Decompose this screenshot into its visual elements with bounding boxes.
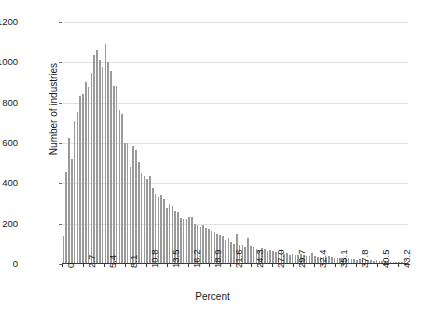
histogram-bar [141, 173, 143, 264]
histogram-bar [244, 247, 246, 264]
x-axis-label: Percent [0, 292, 425, 302]
y-tick-label: 800 [0, 98, 18, 108]
histogram-bar [130, 167, 132, 264]
x-tick-mark [272, 264, 273, 267]
histogram-bar [205, 228, 207, 264]
histogram-bar [163, 199, 165, 264]
x-tick-label: 5.4 [108, 255, 118, 268]
histogram-bar [91, 73, 93, 264]
x-tick-mark [167, 264, 168, 267]
histogram-bar [71, 159, 73, 264]
y-tick-mark [59, 224, 62, 225]
x-tick-label: 37.8 [360, 250, 370, 269]
x-tick-mark [251, 264, 252, 267]
y-tick-mark [59, 103, 62, 104]
y-tick-label: 1200 [0, 17, 18, 27]
histogram-bar [79, 96, 81, 264]
y-tick-label: 200 [0, 219, 18, 229]
histogram-bar [132, 146, 134, 264]
histogram-bar [119, 110, 121, 264]
x-tick-label: 18.9 [213, 250, 223, 269]
histogram-bar [63, 236, 65, 264]
y-tick-mark [59, 22, 62, 23]
x-tick-mark [125, 264, 126, 267]
x-tick-label: 32.4 [318, 250, 328, 269]
x-tick-mark [188, 264, 189, 267]
x-tick-mark [398, 264, 399, 267]
histogram-bar [127, 143, 129, 264]
histogram-bar [160, 195, 162, 264]
x-tick-mark [377, 264, 378, 267]
y-tick-mark [59, 183, 62, 184]
x-tick-label: 2.7 [87, 255, 97, 268]
histogram-bar [74, 121, 76, 264]
histogram-bars [62, 22, 408, 264]
x-tick-mark [146, 264, 147, 267]
histogram-bar [228, 238, 230, 264]
histogram-bar [116, 86, 118, 264]
x-tick-label: 21.6 [234, 250, 244, 269]
x-tick-mark [83, 264, 84, 267]
histogram-bar [247, 238, 249, 264]
histogram-bar [186, 219, 188, 264]
x-tick-label: 24.3 [255, 250, 265, 269]
y-tick-mark [59, 143, 62, 144]
histogram-bar [105, 44, 107, 264]
histogram-figure: 020040060080010001200 02.75.48.110.813.5… [0, 0, 425, 314]
x-tick-mark [335, 264, 336, 267]
x-tick-label: 13.5 [171, 250, 181, 269]
x-tick-mark [230, 264, 231, 267]
plot-area [62, 22, 408, 264]
x-tick-mark [314, 264, 315, 267]
histogram-bar [135, 150, 137, 264]
x-tick-label: 27.0 [276, 250, 286, 269]
y-axis-label: Number of industries [49, 49, 59, 169]
x-tick-mark [293, 264, 294, 267]
histogram-bar [107, 62, 109, 264]
histogram-bar [124, 143, 126, 264]
histogram-bar [102, 67, 104, 264]
x-tick-label: 8.1 [129, 255, 139, 268]
histogram-bar [113, 86, 115, 264]
y-tick-label: 600 [0, 138, 18, 148]
x-tick-mark [62, 264, 63, 267]
x-tick-label: 35.1 [339, 250, 349, 269]
x-tick-label: 10.8 [150, 250, 160, 269]
histogram-bar [96, 50, 98, 264]
histogram-bar [208, 229, 210, 264]
x-tick-label: 16.2 [192, 250, 202, 269]
y-tick-label: 0 [0, 259, 18, 269]
histogram-bar [146, 179, 148, 264]
histogram-bar [82, 94, 84, 264]
y-tick-mark [59, 62, 62, 63]
histogram-bar [93, 55, 95, 264]
histogram-bar [65, 172, 67, 264]
histogram-bar [144, 176, 146, 264]
y-tick-label: 400 [0, 178, 18, 188]
x-tick-label: 40.5 [381, 250, 391, 269]
y-tick-label: 1000 [0, 57, 18, 67]
histogram-bar [250, 246, 252, 264]
histogram-bar [230, 242, 232, 264]
x-tick-mark [209, 264, 210, 267]
histogram-bar [88, 87, 90, 264]
x-tick-label: 0 [66, 263, 76, 268]
histogram-bar [110, 71, 112, 264]
histogram-bar [99, 60, 101, 264]
x-tick-mark [356, 264, 357, 267]
histogram-bar [202, 225, 204, 264]
histogram-bar [121, 114, 123, 264]
histogram-bar [225, 240, 227, 264]
histogram-bar [77, 112, 79, 264]
histogram-bar [188, 217, 190, 264]
x-tick-label: 43.2 [402, 250, 412, 269]
x-tick-mark [104, 264, 105, 267]
histogram-bar [166, 208, 168, 264]
x-tick-label: 29.7 [297, 250, 307, 269]
histogram-bar [68, 138, 70, 264]
histogram-bar [85, 82, 87, 265]
histogram-bar [138, 162, 140, 264]
histogram-bar [183, 219, 185, 264]
